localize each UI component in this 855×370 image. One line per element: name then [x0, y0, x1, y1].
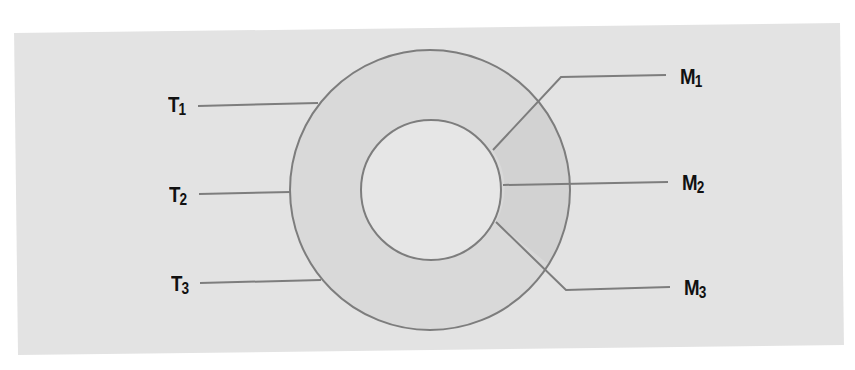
label-t3-base: T — [171, 271, 182, 296]
label-t2-subscript: 2 — [180, 191, 187, 208]
inner-circle — [361, 120, 501, 260]
t3-leader-line — [200, 280, 321, 283]
label-t1-subscript: 1 — [179, 101, 186, 118]
label-m1: M1 — [680, 66, 701, 88]
ring-diagram-graphic — [0, 0, 855, 370]
label-m1-base: M — [680, 64, 695, 89]
t1-leader-line — [198, 103, 318, 106]
label-t3: T3 — [171, 273, 188, 295]
label-t2-base: T — [169, 182, 180, 207]
diagram-stage: T1 T2 T3 M1 M2 M3 — [0, 0, 855, 370]
label-t1-base: T — [168, 92, 179, 117]
label-m3-subscript: 3 — [699, 284, 706, 301]
t2-leader-line — [199, 192, 291, 194]
label-t2: T2 — [169, 184, 186, 206]
label-m1-subscript: 1 — [695, 73, 702, 90]
label-t1: T1 — [168, 94, 185, 116]
label-m2: M2 — [682, 172, 703, 194]
label-m2-subscript: 2 — [697, 179, 704, 196]
label-m2-base: M — [682, 170, 697, 195]
label-m3: M3 — [684, 277, 705, 299]
label-t3-subscript: 3 — [182, 280, 189, 297]
label-m3-base: M — [684, 275, 699, 300]
